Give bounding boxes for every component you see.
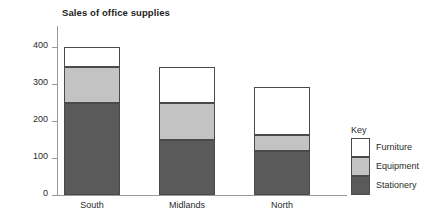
bar-segment-furniture[interactable]	[159, 67, 215, 102]
x-axis-category-label: North	[254, 200, 310, 210]
plot-area: SouthMidlandsNorth	[58, 28, 340, 195]
x-axis-category-label: Midlands	[159, 200, 215, 210]
y-axis-tick: 0	[0, 195, 441, 196]
legend-swatch	[351, 138, 370, 195]
bar-group-north: North	[254, 28, 310, 195]
y-axis-tick-label: 0	[0, 188, 48, 198]
legend-label-furniture: Furniture	[376, 142, 412, 152]
legend-swatch-furniture[interactable]	[351, 138, 370, 157]
y-axis-tick-label: 300	[0, 77, 48, 87]
y-axis-tick-mark	[52, 195, 58, 196]
bar-segment-equipment[interactable]	[159, 103, 215, 140]
bar-segment-equipment[interactable]	[64, 67, 120, 103]
bar-segment-stationery[interactable]	[64, 103, 120, 196]
bar-segment-stationery[interactable]	[254, 151, 310, 195]
bar-group-midlands: Midlands	[159, 28, 215, 195]
legend-swatch-stationery[interactable]	[351, 176, 370, 195]
bar-segment-furniture[interactable]	[254, 87, 310, 135]
chart-screenshot: Sales of office supplies 0100200300400 £…	[0, 0, 441, 221]
chart-title: Sales of office supplies	[62, 7, 170, 18]
legend-title: Key	[351, 125, 367, 135]
x-axis-category-label: South	[64, 200, 120, 210]
y-axis-tick-label: 100	[0, 151, 48, 161]
y-axis-tick-label: 200	[0, 114, 48, 124]
bar-segment-stationery[interactable]	[159, 140, 215, 196]
legend-label-stationery: Stationery	[376, 180, 417, 190]
legend-label-equipment: Equipment	[376, 161, 419, 171]
bar-group-south: South	[64, 28, 120, 195]
legend-swatch-equipment[interactable]	[351, 157, 370, 176]
y-axis-tick-label: 400	[0, 40, 48, 50]
bar-segment-equipment[interactable]	[254, 135, 310, 152]
bar-segment-furniture[interactable]	[64, 47, 120, 67]
